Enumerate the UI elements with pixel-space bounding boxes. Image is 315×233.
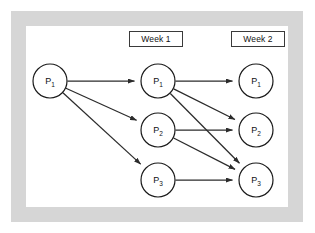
diagram-panel	[26, 26, 288, 207]
column-header-week1: Week 1	[129, 31, 183, 47]
diagram-canvas: Week 1 Week 2 P1P1P2P3P1P2P3	[0, 0, 315, 233]
column-header-week2: Week 2	[231, 31, 285, 47]
